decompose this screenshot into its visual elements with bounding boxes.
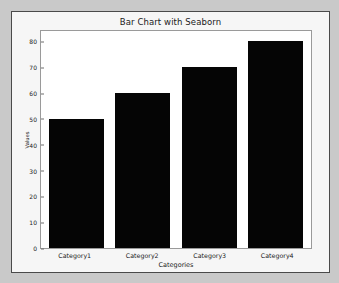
y-tick-label: 60 bbox=[29, 90, 41, 97]
y-tick-label: 70 bbox=[29, 64, 41, 71]
x-tick-label: Category3 bbox=[193, 252, 226, 259]
y-tick-label: 40 bbox=[29, 141, 41, 148]
y-tick-label: 50 bbox=[29, 115, 41, 122]
bar-slot bbox=[176, 31, 243, 248]
x-axis-label: Categories bbox=[41, 261, 311, 269]
y-tick-label: 20 bbox=[29, 193, 41, 200]
bar-category4 bbox=[248, 41, 303, 248]
plot-axes: 01020304050607080 Category1Category2Cate… bbox=[40, 30, 312, 249]
bar-slot bbox=[243, 31, 310, 248]
bar-category2 bbox=[115, 93, 170, 248]
x-tick-label: Category2 bbox=[126, 252, 159, 259]
x-tick-label: Category1 bbox=[58, 252, 91, 259]
y-tick-label: 0 bbox=[33, 245, 41, 252]
y-tick-label: 80 bbox=[29, 38, 41, 45]
chart-title: Bar Chart with Seaborn bbox=[12, 17, 329, 27]
y-tick-label: 30 bbox=[29, 167, 41, 174]
bar-slot bbox=[43, 31, 110, 248]
y-axis-label: Values bbox=[24, 131, 30, 148]
bar-category1 bbox=[49, 119, 104, 248]
bar-slot bbox=[110, 31, 177, 248]
bars-container bbox=[41, 31, 311, 248]
figure-canvas: Bar Chart with Seaborn 01020304050607080… bbox=[11, 11, 330, 273]
bar-category3 bbox=[182, 67, 237, 248]
page-background: Bar Chart with Seaborn 01020304050607080… bbox=[0, 0, 339, 283]
y-tick-label: 10 bbox=[29, 219, 41, 226]
x-tick-label: Category4 bbox=[261, 252, 294, 259]
